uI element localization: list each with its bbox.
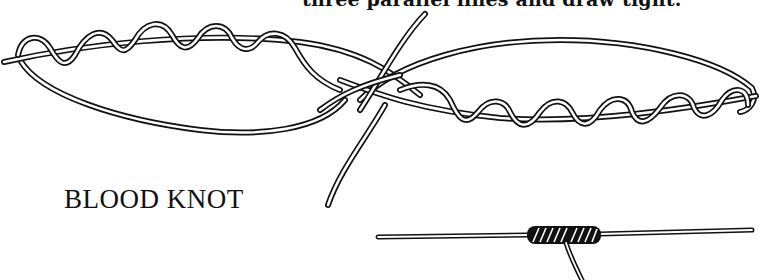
finished-tag-end bbox=[566, 243, 582, 280]
finished-line-right bbox=[600, 230, 752, 234]
blood-knot-diagram: three parallel lines and draw tight. .o … bbox=[0, 0, 759, 280]
finished-line-left bbox=[378, 235, 528, 237]
finished-knot-coils bbox=[527, 226, 601, 244]
tightened-knot-illustration: .o2 { fill: none; stroke: #111; stroke-w… bbox=[0, 0, 759, 280]
